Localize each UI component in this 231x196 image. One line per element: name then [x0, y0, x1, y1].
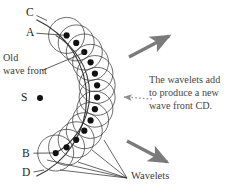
wavelet-source-point — [92, 106, 98, 112]
old-wave-front-label-line2: wave front — [3, 65, 47, 76]
wavelet-source-point — [73, 40, 79, 46]
propagation-arrow-lower — [127, 141, 167, 162]
propagation-arrow-upper — [129, 36, 169, 57]
label-point-a: A — [26, 26, 34, 39]
label-d-leader-line — [34, 170, 45, 172]
annotation-line1: The wavelets add — [149, 74, 220, 87]
wavelet-source-point — [94, 94, 100, 100]
wavelet-source-point — [53, 150, 59, 156]
annotation-dotted-leader-arrow — [124, 97, 152, 99]
wavelet-source-point — [92, 70, 98, 76]
label-source-s: S — [21, 91, 27, 104]
label-point-c: C — [26, 6, 34, 19]
wavelet-source-point — [94, 82, 100, 88]
huygens-principle-figure: C A Old wave front S B D The wavelets ad… — [0, 0, 231, 196]
annotation-line3: wave front CD. — [149, 100, 212, 113]
label-point-d: D — [22, 166, 30, 179]
annotation-line2: to produce a new — [149, 87, 219, 100]
wavelet-source-point — [81, 49, 87, 55]
wavelet-source-point — [73, 137, 79, 143]
label-c-leader-line — [37, 16, 48, 21]
wavelet-source-point — [88, 59, 94, 65]
source-point-S — [37, 95, 43, 101]
wavelet-source-point — [63, 32, 69, 38]
wavelet-source-point — [81, 128, 87, 134]
old-wave-front-label-line1: Old — [3, 52, 18, 63]
wavelet-source-point — [63, 144, 69, 150]
label-a-leader-line — [37, 33, 64, 35]
wavelets-label: Wavelets — [131, 170, 169, 182]
wavelet-source-point — [88, 117, 94, 123]
label-point-b: B — [22, 147, 30, 160]
